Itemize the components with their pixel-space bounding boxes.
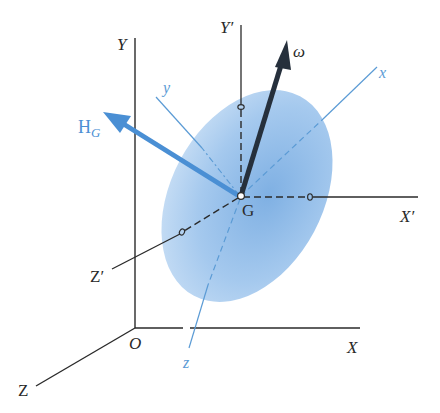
label-X-prime: X′: [399, 207, 414, 226]
label-origin-O: O: [129, 334, 141, 353]
label-body-y: y: [161, 79, 171, 97]
label-G: G: [242, 201, 254, 220]
label-H-subscript-G: G: [91, 125, 101, 140]
Z-axis: [36, 328, 135, 386]
angular-momentum-arrowhead: [103, 112, 131, 133]
body-y-axis-solid: [156, 97, 202, 148]
body-x-axis-solid: [322, 67, 377, 120]
label-Y-prime: Y′: [220, 18, 233, 37]
label-H: H: [78, 117, 91, 137]
mass-center-point: [238, 193, 245, 200]
label-angular-momentum: HG: [78, 117, 101, 140]
label-body-z: z: [182, 354, 190, 371]
label-body-x: x: [378, 64, 386, 81]
rigid-body-ellipsoid: [127, 61, 367, 332]
label-omega: ω: [293, 42, 305, 61]
label-Z-prime: Z′: [90, 267, 104, 286]
angular-velocity-arrowhead: [275, 40, 291, 70]
label-X: X: [346, 338, 358, 357]
diagram-canvas: Y X Z O Y′ X′ Z′ G x y z ω HG: [0, 0, 440, 413]
label-Y: Y: [117, 35, 128, 54]
label-Z: Z: [18, 381, 28, 400]
